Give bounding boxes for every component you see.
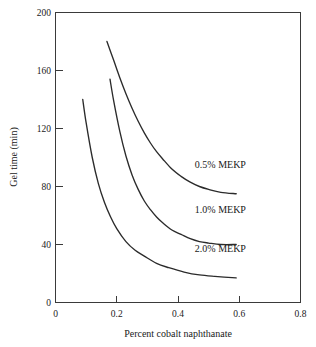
series-label: 1.0% MEKP (195, 204, 247, 215)
x-axis-title: Percent cobalt naphthanate (124, 328, 232, 339)
x-tick-label: 0.4 (172, 309, 184, 319)
x-tick-label: 0.8 (295, 309, 307, 319)
gel-time-line-chart: 200 160 120 80 40 0 0 0.2 0.4 0.6 0.8 Pe… (0, 0, 316, 347)
y-tick-label: 40 (42, 240, 52, 250)
y-tick-label: 0 (46, 298, 51, 308)
chart-figure: 200 160 120 80 40 0 0 0.2 0.4 0.6 0.8 Pe… (0, 0, 316, 347)
series-label: 2.0% MEKP (195, 243, 247, 254)
y-tick-label: 160 (37, 66, 52, 76)
x-tick-label: 0 (53, 309, 58, 319)
x-tick-label: 0.6 (233, 309, 245, 319)
y-tick-label: 120 (37, 124, 52, 134)
y-axis-title: Gel time (min) (8, 127, 20, 186)
y-tick-label: 80 (42, 182, 52, 192)
chart-background (0, 0, 316, 347)
x-tick-label: 0.2 (111, 309, 123, 319)
y-tick-label: 200 (37, 8, 52, 18)
series-label: 0.5% MEKP (195, 159, 247, 170)
